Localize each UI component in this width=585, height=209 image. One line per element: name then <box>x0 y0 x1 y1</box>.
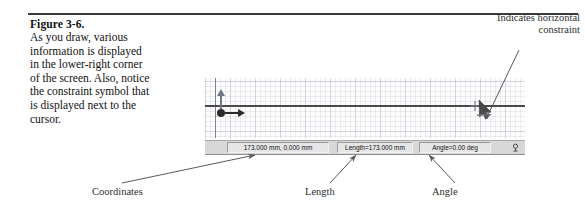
y-axis-line <box>215 78 216 138</box>
cad-canvas[interactable] <box>205 78 525 138</box>
leader-coordinates <box>122 155 255 183</box>
x-axis-arrow-icon <box>225 111 245 115</box>
annotation-coordinates: Coordinates <box>92 186 143 198</box>
horizontal-constraint-icon <box>477 100 491 119</box>
status-coordinates-field[interactable]: 173.000 mm, 0.000 mm <box>227 142 329 153</box>
y-axis-arrow-icon <box>219 89 223 109</box>
snap-indicator-icon[interactable] <box>509 142 522 153</box>
crosshair-cursor-icon <box>467 95 501 125</box>
status-angle-field[interactable]: Angle=0.00 deg <box>419 142 491 153</box>
leader-angle <box>429 155 455 183</box>
figure-caption: Figure 3-6. As you draw, various informa… <box>30 17 150 126</box>
annotation-constraint: Indicates horizontal constraint <box>468 12 580 36</box>
leader-length <box>330 155 356 183</box>
status-length-field[interactable]: Length=173.000 mm <box>337 142 413 153</box>
origin-point-icon <box>217 109 225 117</box>
cad-status-bar: 173.000 mm, 0.000 mm Length=173.000 mm A… <box>205 140 525 155</box>
figure-caption-title: Figure 3-6. <box>30 17 150 31</box>
figure-page: Figure 3-6. As you draw, various informa… <box>0 0 585 209</box>
annotation-length: Length <box>305 186 335 198</box>
figure-caption-body: As you draw, various information is disp… <box>30 31 150 126</box>
annotation-angle: Angle <box>432 186 458 198</box>
